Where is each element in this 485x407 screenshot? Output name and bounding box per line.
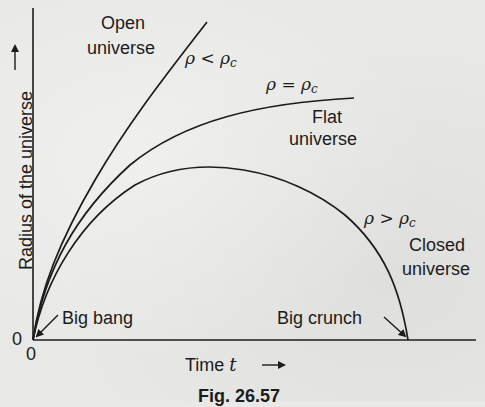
closed-universe-condition: ρ > ρc	[364, 208, 416, 230]
closed-universe-label-line1: Closed	[409, 235, 465, 255]
open-universe-label-line1: Open	[101, 13, 145, 33]
open-universe-curve	[33, 22, 207, 340]
figure-caption: Fig. 26.57	[198, 386, 280, 407]
flat-universe-label-line2: universe	[289, 129, 357, 149]
big-bang-arrow	[37, 315, 58, 336]
x-axis-label: Time t	[185, 355, 237, 375]
flat-universe-label-line1: Flat	[312, 107, 342, 127]
flat-universe-condition: ρ = ρc	[266, 74, 318, 96]
big-crunch-label: Big crunch	[277, 308, 362, 328]
y-origin-tick: 0	[12, 329, 22, 349]
big-bang-label: Big bang	[62, 308, 133, 328]
open-universe-label-line2: universe	[87, 38, 155, 58]
closed-universe-label-line2: universe	[402, 259, 470, 279]
open-universe-condition: ρ < ρc	[185, 48, 237, 70]
big-crunch-arrow	[384, 317, 405, 336]
x-origin-tick: 0	[26, 344, 36, 364]
y-axis-label: Radius of the universe	[16, 81, 37, 281]
